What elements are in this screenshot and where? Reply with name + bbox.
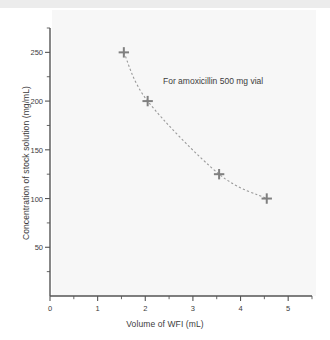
x-tick-label: 0 (48, 304, 52, 313)
x-axis-title: Volume of WFI (mL) (0, 319, 330, 329)
y-tick-label: 250 (18, 48, 43, 57)
data-point-marker (262, 193, 272, 203)
chart-figure: Volume of WFI (mL) Concentration of stoc… (0, 0, 330, 340)
data-series-line (124, 52, 267, 198)
y-tick-label: 150 (18, 145, 43, 154)
y-axis-title: Concentration of stock solution (mg/mL) (21, 63, 31, 263)
x-tick-label: 2 (143, 304, 147, 313)
x-tick-label: 1 (96, 304, 100, 313)
x-tick-label: 4 (238, 304, 242, 313)
x-tick-label: 5 (286, 304, 290, 313)
chart-annotation: For amoxicillin 500 mg vial (163, 76, 263, 86)
chart-canvas (0, 0, 330, 340)
y-tick-label: 200 (18, 97, 43, 106)
data-point-marker (119, 47, 129, 57)
y-tick-label: 50 (18, 243, 43, 252)
y-tick-label: 100 (18, 194, 43, 203)
x-tick-label: 3 (191, 304, 195, 313)
data-point-marker (142, 96, 152, 106)
